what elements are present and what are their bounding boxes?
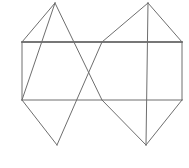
geometric-figure-svg <box>0 0 189 168</box>
figure-canvas <box>0 0 189 168</box>
